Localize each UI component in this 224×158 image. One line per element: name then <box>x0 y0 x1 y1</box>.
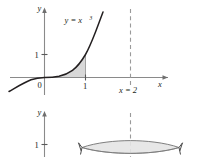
top-y-tick-label-1: 1 <box>35 50 39 60</box>
bottom-y-tick-label-1: 1 <box>35 140 39 150</box>
bottom-y-axis-arrow <box>42 111 47 117</box>
top-y-axis-label: y <box>37 3 42 13</box>
curve-equation-label: y = x 3 <box>64 15 93 26</box>
vertical-line-label: x = 2 <box>118 85 138 95</box>
top-x-axis-arrow <box>163 75 169 80</box>
top-y-axis-arrow <box>42 8 47 14</box>
top-x-tick-label-1: 1 <box>83 81 87 91</box>
curve-equation-base: y = x <box>64 15 83 25</box>
cubic-curve <box>9 12 103 92</box>
calculus-figure: y x 0 1 1 y = x 3 x = 2 y 1 <box>0 0 224 157</box>
solid-of-revolution-rim <box>82 141 179 154</box>
figure-canvas: y x 0 1 1 y = x 3 x = 2 y 1 <box>0 0 224 157</box>
curve-equation-exponent: 3 <box>89 15 93 21</box>
top-x-axis-label: x <box>157 79 162 89</box>
origin-label: 0 <box>38 80 42 90</box>
bottom-y-axis-label: y <box>37 107 42 117</box>
top-panel-group: y x 0 1 1 y = x 3 x = 2 <box>9 3 168 95</box>
bottom-panel-group: y 1 <box>35 107 183 158</box>
